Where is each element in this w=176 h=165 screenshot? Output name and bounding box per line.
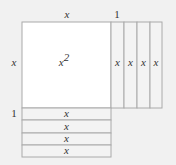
vertical-strip-label: x — [114, 56, 120, 68]
vertical-strip-label: x — [140, 56, 146, 68]
left-one-label: 1 — [11, 107, 17, 119]
vertical-strip-label: x — [153, 56, 159, 68]
x-squared-tile — [22, 22, 111, 108]
algebra-tiles-diagram: x 1 x 1 x2 x x x x x x x x — [0, 0, 176, 165]
horizontal-strip-label: x — [63, 120, 69, 132]
horizontal-strip-label: x — [63, 144, 69, 156]
left-x-label: x — [11, 56, 17, 68]
horizontal-strip-label: x — [63, 132, 69, 144]
top-one-label: 1 — [114, 8, 120, 20]
top-x-label: x — [64, 8, 70, 20]
vertical-strip-label: x — [127, 56, 133, 68]
horizontal-strip-label: x — [63, 107, 69, 119]
